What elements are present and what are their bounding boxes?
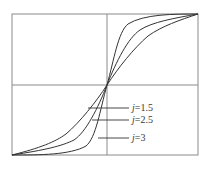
label-j-1-5: j=1.5	[130, 102, 153, 113]
label-j-3: j=3	[130, 132, 145, 143]
label-j-2-5: j=2.5	[130, 114, 153, 125]
chart-canvas: j=1.5 j=2.5 j=3	[0, 0, 210, 171]
